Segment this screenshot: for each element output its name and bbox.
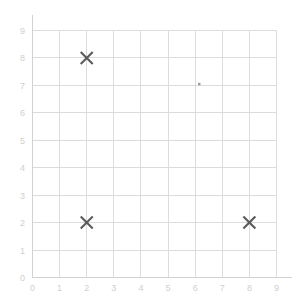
plot-canvas: 0123456789 0123456789 [0, 0, 301, 308]
y-tick-label-4: 4 [20, 163, 25, 173]
y-tick-label-7: 7 [20, 81, 25, 91]
x-tick-label-1: 1 [57, 283, 62, 293]
vertical-gridlines [33, 31, 277, 278]
x-tick-label-4: 4 [138, 283, 143, 293]
x-tick-label-5: 5 [166, 283, 171, 293]
y-tick-label-1: 1 [20, 246, 25, 256]
y-tick-label-6: 6 [20, 108, 25, 118]
horizontal-gridlines [33, 31, 277, 278]
x-tick-label-2: 2 [84, 283, 89, 293]
y-tick-label-9: 9 [20, 26, 25, 36]
y-tick-label-3: 3 [20, 191, 25, 201]
x-tick-label-0: 0 [30, 283, 35, 293]
x-axis-tick-labels: 0123456789 [30, 283, 279, 293]
x-tick-label-7: 7 [220, 283, 225, 293]
stray-dot-marker [198, 83, 200, 85]
x-tick-label-9: 9 [274, 283, 279, 293]
y-tick-label-5: 5 [20, 136, 25, 146]
scatter-plot-figure: 0123456789 0123456789 [0, 0, 301, 308]
axis-lines [33, 15, 293, 278]
y-tick-label-0: 0 [20, 273, 25, 283]
x-tick-label-3: 3 [111, 283, 116, 293]
y-tick-label-8: 8 [20, 53, 25, 63]
x-tick-label-6: 6 [193, 283, 198, 293]
x-tick-label-8: 8 [247, 283, 252, 293]
y-tick-label-2: 2 [20, 218, 25, 228]
y-axis-tick-labels: 0123456789 [20, 26, 25, 283]
